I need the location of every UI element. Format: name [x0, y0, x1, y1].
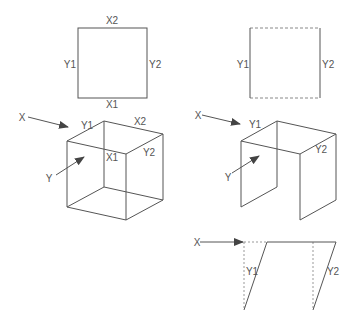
side-shear-panel: X Y1 Y2 — [194, 237, 340, 310]
label-y2: Y2 — [322, 59, 335, 70]
label-y2: Y2 — [327, 266, 340, 277]
cube-edge — [67, 207, 126, 220]
cube-edge — [104, 187, 163, 200]
arrow-y — [232, 156, 259, 173]
label-y: Y — [225, 172, 232, 183]
label-x: X — [19, 112, 26, 123]
label-y1: Y1 — [237, 59, 250, 70]
cube-edge — [67, 187, 104, 207]
label-x: X — [195, 110, 202, 121]
square-solid-outline — [78, 28, 147, 98]
cube-edge — [126, 200, 163, 220]
label-y1: Y1 — [64, 59, 77, 70]
arrow-y — [56, 157, 84, 175]
frame-edge — [241, 141, 300, 154]
frame-edge — [241, 187, 277, 207]
label-y2: Y2 — [315, 144, 328, 155]
label-x: X — [194, 237, 201, 248]
label-x2: X2 — [106, 15, 119, 26]
label-x2: X2 — [134, 116, 147, 127]
square-dashed-panel: Y1 Y2 — [237, 28, 335, 98]
cube-open-panel: X Y Y1 Y2 — [195, 110, 336, 220]
label-y1: Y1 — [81, 120, 94, 131]
frame-edge — [300, 200, 336, 220]
label-y2: Y2 — [143, 147, 156, 158]
label-x1: X1 — [106, 152, 119, 163]
arrow-x — [202, 115, 240, 124]
label-y2: Y2 — [149, 59, 162, 70]
label-y1: Y1 — [246, 266, 259, 277]
square-solid-panel: X2 X1 Y1 Y2 — [64, 15, 162, 110]
diagram-canvas: X2 X1 Y1 Y2 Y1 Y2 X Y Y1 X2 X1 — [0, 0, 352, 328]
label-y1: Y1 — [249, 119, 262, 130]
cube-full-panel: X Y Y1 X2 X1 Y2 — [19, 112, 163, 220]
label-x1: X1 — [106, 99, 119, 110]
frame-edge — [277, 121, 336, 134]
arrow-x — [28, 117, 68, 127]
label-y: Y — [46, 173, 53, 184]
